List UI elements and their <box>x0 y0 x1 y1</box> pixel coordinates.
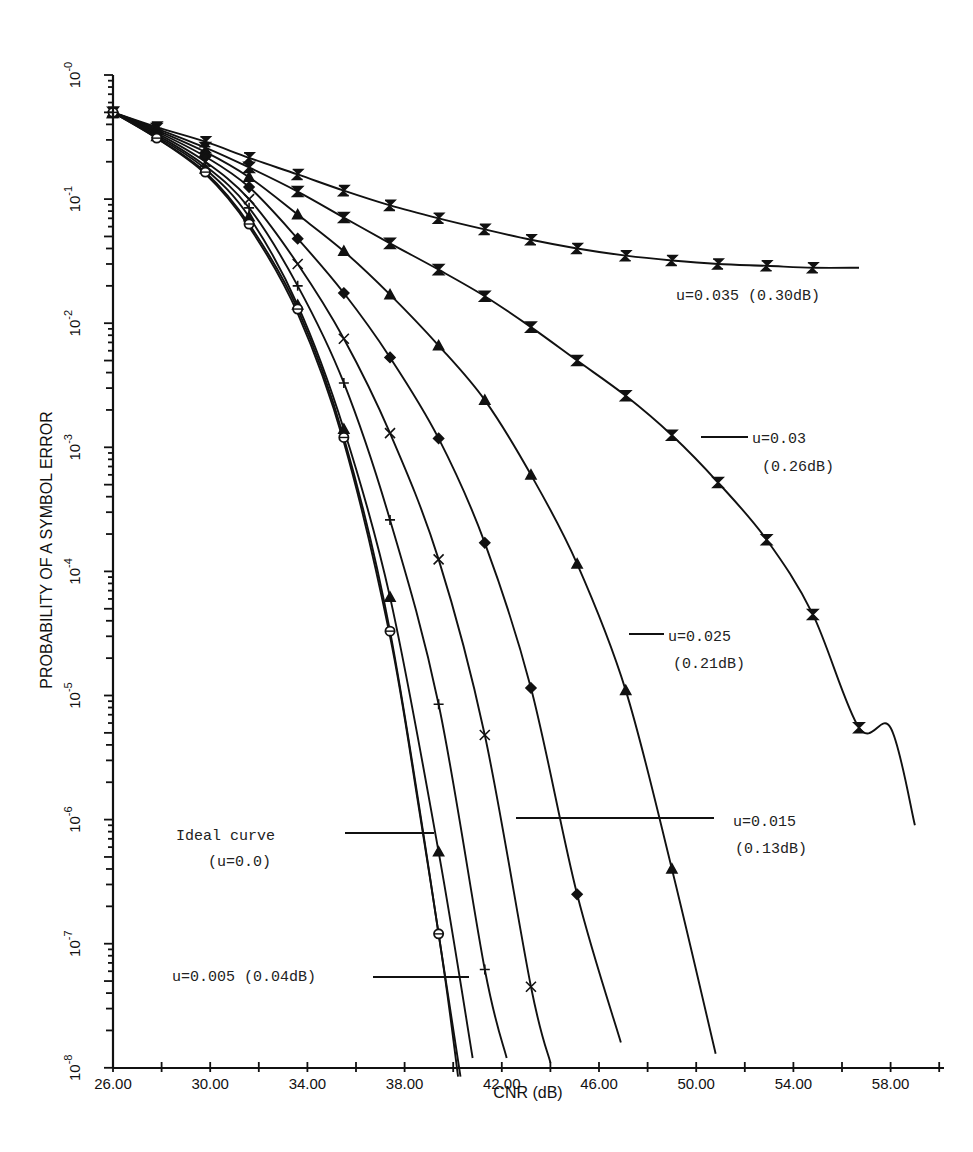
diamond-marker-icon <box>526 683 536 693</box>
svg-text:10-6: 10-6 <box>62 806 83 832</box>
triangle-marker-icon <box>621 685 631 694</box>
bowtie-marker-icon <box>762 535 772 545</box>
bowtie-marker-icon <box>713 478 723 488</box>
y-tick-label: 10-1 <box>62 186 83 212</box>
x-tick-label: 58.00 <box>872 1075 910 1092</box>
y-tick-label: 10-6 <box>62 806 83 832</box>
y-tick-label: 10-4 <box>62 558 83 584</box>
x-marker-icon <box>434 554 444 564</box>
curve-u-0-035-0-30db- <box>113 112 859 267</box>
annotation-ideal-line-1: (u=0.0) <box>208 854 271 871</box>
curve-u-0-02 <box>113 112 621 1042</box>
x-tick-label: 50.00 <box>677 1075 715 1092</box>
svg-text:10-4: 10-4 <box>62 558 83 584</box>
bowtie-marker-icon <box>621 391 631 401</box>
triangle-marker-icon <box>572 559 582 568</box>
triangle-marker-icon <box>526 470 536 479</box>
y-tick-label: 10-8 <box>62 1055 83 1081</box>
Z-marker-icon <box>339 186 349 196</box>
Z-marker-icon <box>385 200 395 210</box>
annotation-u025-line-1: (0.21dB) <box>673 656 745 673</box>
bowtie-marker-icon <box>808 609 818 619</box>
plus-marker-icon <box>385 515 395 525</box>
x-tick-label: 38.00 <box>386 1075 424 1092</box>
x-tick-label: 34.00 <box>289 1075 327 1092</box>
triangle-up-marker-icon <box>434 847 444 856</box>
svg-text:10-0: 10-0 <box>62 62 83 88</box>
annotation-ideal-line-0: Ideal curve <box>176 828 275 845</box>
bowtie-marker-icon <box>480 291 490 301</box>
x-marker-icon <box>293 259 303 269</box>
curve-u-0-015-0-13db- <box>113 112 550 1062</box>
Z-marker-icon <box>244 153 254 163</box>
plus-marker-icon <box>339 378 349 388</box>
symbol-error-chart: 10-010-110-210-310-410-510-610-710-8 26.… <box>0 0 973 1152</box>
svg-text:10-3: 10-3 <box>62 434 83 460</box>
x-tick-label: 46.00 <box>580 1075 618 1092</box>
y-tick-label: 10-0 <box>62 62 83 88</box>
x-axis-title: CNR (dB) <box>493 1084 562 1101</box>
x-marker-icon <box>244 194 254 204</box>
bowtie-marker-icon <box>339 213 349 223</box>
curves-layer <box>113 112 915 1076</box>
axes: 10-010-110-210-310-410-510-610-710-8 26.… <box>62 62 944 1092</box>
curve-u-0-0025 <box>113 112 458 1076</box>
x-tick-label: 54.00 <box>775 1075 813 1092</box>
triangle-up-marker-icon <box>385 592 395 601</box>
bowtie-marker-icon <box>854 723 864 733</box>
curve-u-0-005-0-04db- <box>113 112 473 1058</box>
annotation-u03-line-1: (0.26dB) <box>762 459 834 476</box>
svg-text:10-2: 10-2 <box>62 310 83 336</box>
annotation-u005-line-0: u=0.005 (0.04dB) <box>172 969 316 986</box>
annotation-u015-line-0: u=0.015 <box>733 814 796 831</box>
y-tick-label: 10-3 <box>62 434 83 460</box>
svg-text:10-7: 10-7 <box>62 930 83 956</box>
diamond-marker-icon <box>385 352 395 362</box>
annotation-u03-line-0: u=0.03 <box>752 431 806 448</box>
bowtie-marker-icon <box>526 322 536 332</box>
curve-annotations: u=0.035 (0.30dB)u=0.03(0.26dB)u=0.025(0.… <box>172 288 834 986</box>
bowtie-marker-icon <box>385 238 395 248</box>
diamond-marker-icon <box>572 889 582 899</box>
x-marker-icon <box>385 428 395 438</box>
diamond-marker-icon <box>434 433 444 443</box>
bowtie-marker-icon <box>434 265 444 275</box>
curve-u-0-01 <box>113 112 507 1058</box>
y-axis-title: PROBABILITY OF A SYMBOL ERROR <box>38 411 55 688</box>
triangle-marker-icon <box>667 864 677 873</box>
plus-marker-icon <box>480 964 490 974</box>
y-tick-label: 10-5 <box>62 682 83 708</box>
y-ticks: 10-010-110-210-310-410-510-610-710-8 <box>62 62 113 1081</box>
plus-marker-icon <box>434 699 444 709</box>
svg-text:10-1: 10-1 <box>62 186 83 212</box>
y-tick-label: 10-2 <box>62 310 83 336</box>
curve-ideal-curve-u-0-0- <box>113 112 460 1076</box>
bowtie-marker-icon <box>572 356 582 366</box>
Z-marker-icon <box>293 169 303 179</box>
svg-text:10-5: 10-5 <box>62 682 83 708</box>
y-tick-label: 10-7 <box>62 930 83 956</box>
plus-marker-icon <box>293 281 303 291</box>
bowtie-marker-icon <box>293 187 303 197</box>
diamond-marker-icon <box>480 538 490 548</box>
bowtie-marker-icon <box>667 430 677 440</box>
annotation-u025-line-0: u=0.025 <box>668 629 731 646</box>
x-tick-label: 26.00 <box>94 1075 132 1092</box>
svg-text:10-8: 10-8 <box>62 1055 83 1081</box>
triangle-marker-icon <box>244 172 254 181</box>
x-marker-icon <box>339 334 349 344</box>
x-tick-label: 30.00 <box>191 1075 229 1092</box>
annotation-u035-line-0: u=0.035 (0.30dB) <box>676 288 820 305</box>
annotation-u015-line-1: (0.13dB) <box>735 841 807 858</box>
